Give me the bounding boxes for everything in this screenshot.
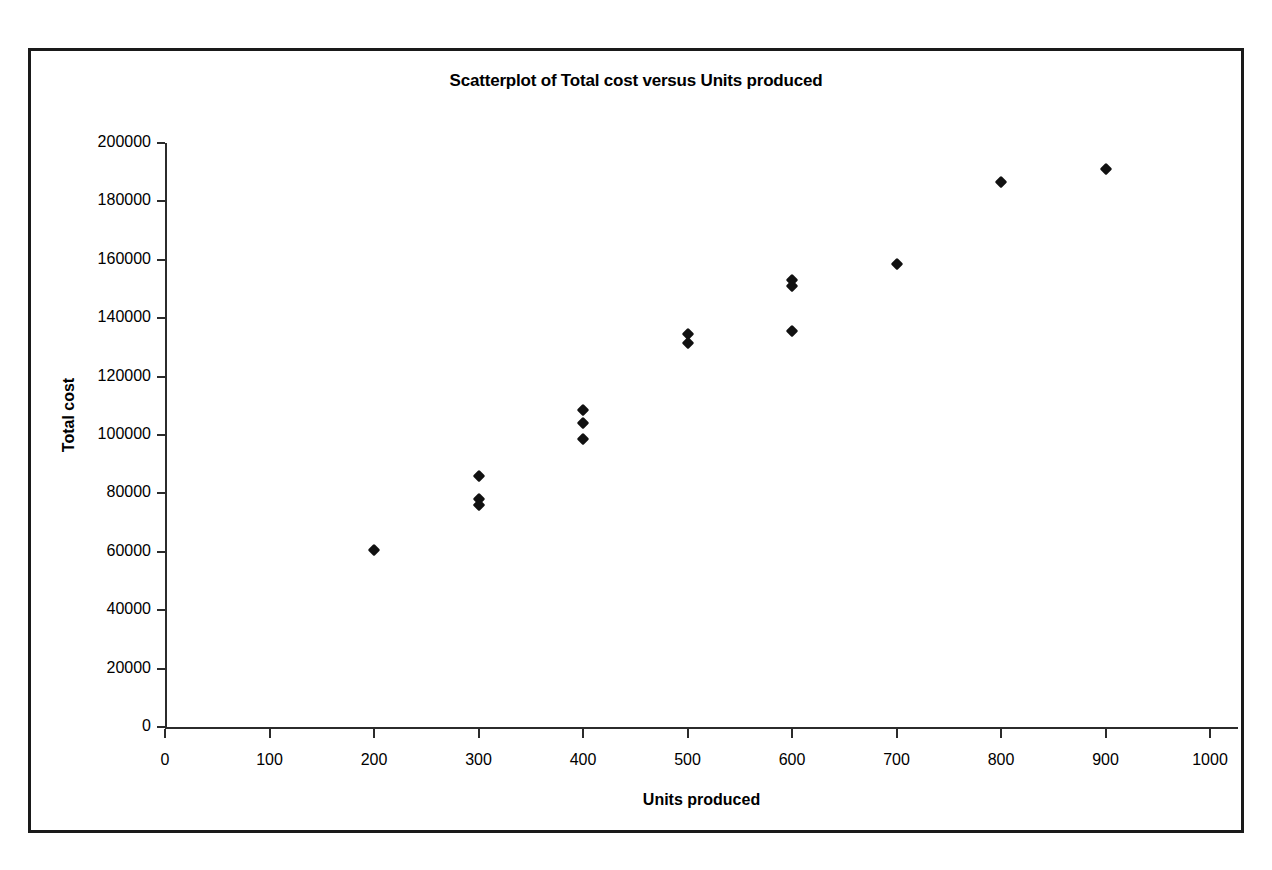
x-axis-tick-label: 600 <box>732 751 852 769</box>
data-point-marker <box>368 544 381 557</box>
x-axis-tick-label: 400 <box>523 751 643 769</box>
x-axis-title: Units produced <box>165 791 1238 809</box>
x-axis-tick-label: 800 <box>941 751 1061 769</box>
x-axis-tick <box>791 729 793 738</box>
y-axis-tick <box>157 434 165 436</box>
x-axis-tick-label: 300 <box>419 751 539 769</box>
x-axis-tick <box>373 729 375 738</box>
x-axis-tick <box>269 729 271 738</box>
data-point-marker <box>786 325 799 338</box>
y-axis-tick-label: 60000 <box>31 542 151 560</box>
x-axis-tick <box>582 729 584 738</box>
y-axis-tick-label: 200000 <box>31 133 151 151</box>
y-axis-tick-label: 160000 <box>31 250 151 268</box>
x-axis-tick <box>1209 729 1211 738</box>
data-point-marker <box>1099 163 1112 176</box>
y-axis-tick <box>157 142 165 144</box>
data-point-marker <box>577 433 590 446</box>
y-axis-tick-label: 180000 <box>31 191 151 209</box>
data-point-marker <box>890 258 903 271</box>
y-axis-title: Total cost <box>60 315 78 515</box>
x-axis-tick-label: 0 <box>105 751 225 769</box>
x-axis-tick-label: 500 <box>628 751 748 769</box>
x-axis-tick-label: 700 <box>837 751 957 769</box>
y-axis-tick <box>157 668 165 670</box>
y-axis-tick <box>157 609 165 611</box>
y-axis-tick-label: 140000 <box>31 308 151 326</box>
plot-area <box>165 143 1210 727</box>
chart-title: Scatterplot of Total cost versus Units p… <box>31 71 1241 91</box>
y-axis-tick <box>157 376 165 378</box>
x-axis-tick-label: 1000 <box>1150 751 1270 769</box>
y-axis-tick-label: 0 <box>31 717 151 735</box>
y-axis-tick <box>157 726 165 728</box>
y-axis-tick <box>157 317 165 319</box>
x-axis-tick-label: 200 <box>314 751 434 769</box>
x-axis-tick <box>687 729 689 738</box>
y-axis-tick-label: 20000 <box>31 659 151 677</box>
x-axis-tick <box>478 729 480 738</box>
y-axis-tick-label: 100000 <box>31 425 151 443</box>
x-axis-tick <box>164 729 166 738</box>
data-point-marker <box>577 404 590 417</box>
x-axis-tick-label: 900 <box>1046 751 1166 769</box>
x-axis-tick-label: 100 <box>210 751 330 769</box>
data-point-marker <box>472 470 485 483</box>
y-axis-tick <box>157 259 165 261</box>
chart-frame: Scatterplot of Total cost versus Units p… <box>28 48 1244 833</box>
y-axis-tick <box>157 200 165 202</box>
y-axis-tick-label: 120000 <box>31 367 151 385</box>
data-point-marker <box>577 417 590 430</box>
data-point-marker <box>995 176 1008 189</box>
y-axis-tick-label: 80000 <box>31 483 151 501</box>
x-axis-tick <box>896 729 898 738</box>
x-axis-line <box>165 727 1238 729</box>
x-axis-tick <box>1105 729 1107 738</box>
y-axis-tick <box>157 551 165 553</box>
x-axis-tick <box>1000 729 1002 738</box>
data-point-marker <box>681 337 694 350</box>
y-axis-tick-label: 40000 <box>31 600 151 618</box>
y-axis-tick <box>157 492 165 494</box>
